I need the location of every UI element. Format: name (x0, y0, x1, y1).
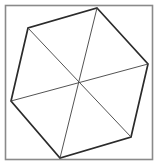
hexagon-diagram: Hexagon partitioned into six triangles (0, 0, 160, 167)
figure-container: Hexagon partitioned into six triangles (0, 0, 160, 167)
